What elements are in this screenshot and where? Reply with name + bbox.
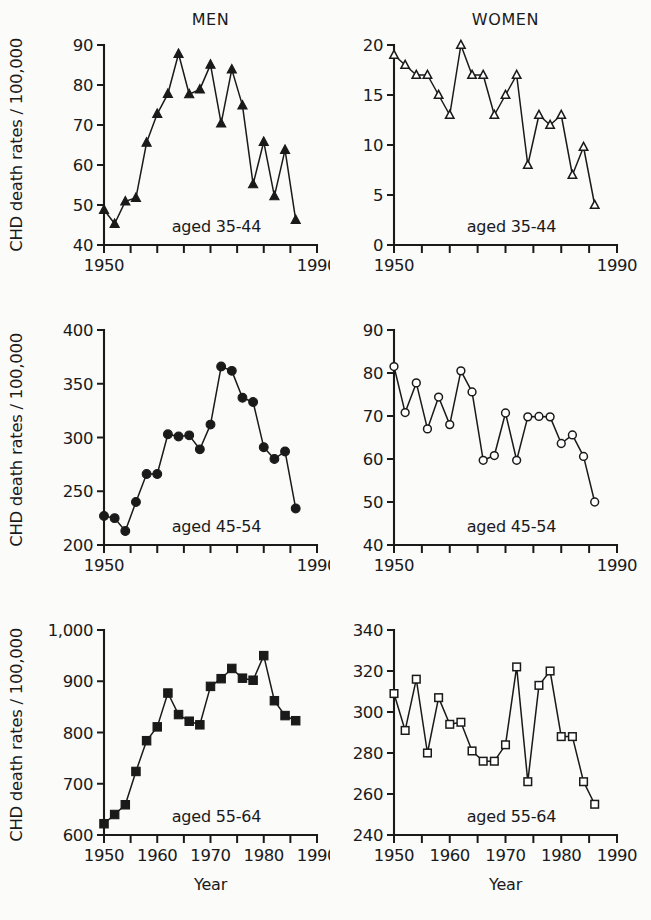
data-point-marker bbox=[423, 70, 431, 78]
data-point-marker bbox=[457, 718, 465, 726]
data-point-marker bbox=[153, 109, 162, 118]
data-point-marker bbox=[591, 800, 599, 808]
data-point-marker bbox=[401, 409, 409, 417]
data-point-marker bbox=[196, 721, 204, 729]
data-point-marker bbox=[568, 170, 576, 178]
y-tick-label: 320 bbox=[353, 662, 383, 681]
x-tick-label: 1970 bbox=[190, 846, 230, 865]
data-point-marker bbox=[292, 717, 300, 725]
data-point-group bbox=[390, 663, 598, 808]
y-tick-label: 300 bbox=[63, 429, 93, 448]
data-point-marker bbox=[513, 663, 521, 671]
column-title: MEN bbox=[192, 10, 230, 29]
y-tick-label: 250 bbox=[63, 482, 93, 501]
x-tick-label: 1950 bbox=[84, 256, 124, 275]
panel-women-45-54: 40506070809019501990aged 45-54 bbox=[321, 300, 651, 600]
data-point-marker bbox=[217, 362, 226, 371]
data-point-marker bbox=[446, 110, 454, 118]
data-point-marker bbox=[121, 801, 129, 809]
data-point-marker bbox=[259, 443, 268, 452]
data-point-marker bbox=[569, 733, 577, 741]
data-point-marker bbox=[217, 674, 225, 682]
data-point-marker bbox=[195, 445, 204, 454]
data-point-marker bbox=[424, 749, 432, 757]
data-point-marker bbox=[99, 205, 108, 214]
data-point-marker bbox=[557, 733, 565, 741]
data-point-marker bbox=[479, 456, 487, 464]
column-title: WOMEN bbox=[472, 10, 539, 29]
x-tick-label: 1950 bbox=[84, 556, 124, 575]
data-point-marker bbox=[501, 90, 509, 98]
data-point-marker bbox=[164, 689, 172, 697]
panel-women-55-64: 24026028030032034019501960197019801990Ye… bbox=[321, 600, 651, 920]
y-tick-label: 600 bbox=[63, 826, 93, 845]
data-point-marker bbox=[206, 420, 215, 429]
data-point-marker bbox=[185, 431, 194, 440]
data-point-marker bbox=[249, 676, 257, 684]
data-point-marker bbox=[546, 413, 554, 421]
data-point-marker bbox=[424, 425, 432, 433]
data-point-marker bbox=[468, 388, 476, 396]
y-tick-label: 80 bbox=[73, 76, 93, 95]
data-point-marker bbox=[490, 110, 498, 118]
panel-men-45-54: CHD death rates / 100,000200250300350400… bbox=[0, 300, 330, 600]
y-tick-label: 80 bbox=[363, 364, 383, 383]
data-point-group bbox=[100, 362, 301, 535]
data-point-marker bbox=[195, 84, 204, 93]
data-point-marker bbox=[413, 675, 421, 683]
data-point-marker bbox=[502, 741, 510, 749]
data-point-marker bbox=[535, 682, 543, 690]
x-axis-title: Year bbox=[488, 875, 523, 894]
data-point-marker bbox=[100, 820, 108, 828]
data-point-marker bbox=[524, 778, 532, 786]
panel-women-35-44: WOMEN0510152019501990aged 35-44 bbox=[321, 0, 651, 300]
y-tick-label: 0 bbox=[373, 236, 383, 255]
data-point-marker bbox=[569, 431, 577, 439]
y-axis-label: CHD death rates / 100,000 bbox=[7, 333, 26, 547]
age-group-annotation: aged 55-64 bbox=[172, 807, 262, 826]
data-point-group bbox=[390, 363, 598, 506]
x-tick-label: 1980 bbox=[541, 846, 581, 865]
y-tick-label: 60 bbox=[363, 450, 383, 469]
data-point-marker bbox=[401, 727, 409, 735]
data-point-marker bbox=[249, 398, 258, 407]
data-point-marker bbox=[238, 674, 246, 682]
data-point-marker bbox=[174, 49, 183, 58]
data-point-marker bbox=[132, 498, 141, 507]
y-tick-label: 15 bbox=[363, 86, 383, 105]
data-series-line bbox=[394, 45, 595, 205]
chd-death-rates-figure: MENCHD death rates / 100,000405060708090… bbox=[0, 0, 651, 920]
data-point-marker bbox=[281, 711, 289, 719]
y-tick-label: 5 bbox=[373, 186, 383, 205]
data-point-marker bbox=[390, 50, 398, 58]
data-point-group bbox=[390, 40, 599, 208]
data-point-marker bbox=[227, 366, 236, 375]
age-group-annotation: aged 35-44 bbox=[467, 217, 557, 236]
data-point-marker bbox=[206, 682, 214, 690]
data-point-marker bbox=[270, 455, 279, 464]
data-point-marker bbox=[259, 137, 268, 146]
y-tick-label: 60 bbox=[73, 156, 93, 175]
data-point-marker bbox=[434, 90, 442, 98]
y-tick-label: 700 bbox=[63, 775, 93, 794]
data-point-marker bbox=[281, 447, 290, 456]
data-point-marker bbox=[535, 110, 543, 118]
data-point-marker bbox=[580, 453, 588, 461]
data-point-marker bbox=[227, 64, 236, 73]
data-point-marker bbox=[535, 413, 543, 421]
x-tick-label: 1990 bbox=[597, 256, 637, 275]
data-point-marker bbox=[591, 498, 599, 506]
data-point-marker bbox=[110, 514, 119, 523]
y-tick-label: 260 bbox=[353, 785, 383, 804]
y-tick-label: 280 bbox=[353, 744, 383, 763]
panel-men-55-64: CHD death rates / 100,0006007008009001,0… bbox=[0, 600, 330, 920]
data-point-marker bbox=[446, 721, 454, 729]
data-point-marker bbox=[457, 367, 465, 375]
data-point-marker bbox=[579, 142, 587, 150]
data-point-marker bbox=[206, 60, 215, 69]
y-tick-label: 800 bbox=[63, 724, 93, 743]
data-point-marker bbox=[121, 527, 130, 536]
y-tick-label: 1,000 bbox=[48, 621, 93, 640]
y-tick-label: 90 bbox=[363, 321, 383, 340]
data-point-marker bbox=[502, 409, 510, 417]
